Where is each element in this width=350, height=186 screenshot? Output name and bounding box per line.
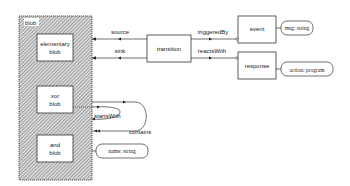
and-blob-node[interactable]: and blob — [37, 135, 73, 162]
startsWith-edge-label: startsWith — [94, 113, 121, 119]
contains-edge-label: contains — [129, 129, 151, 135]
event-label: event — [250, 26, 265, 32]
event-attribute[interactable]: msg: string — [276, 21, 313, 35]
reactsWith-edge-label: reactsWith — [198, 48, 226, 54]
triggeredBy-edge[interactable]: triggeredBy — [191, 29, 238, 40]
elementary-blob-label-1: elementary — [40, 41, 70, 47]
response-attribute[interactable]: action: program — [276, 62, 333, 76]
sink-edge-label: sink — [115, 48, 127, 54]
source-edge[interactable]: source — [92, 29, 147, 41]
event-node[interactable]: event — [238, 16, 276, 43]
blob-container-label: blob — [25, 20, 37, 26]
transition-node[interactable]: transition — [147, 35, 191, 62]
elementary-blob-node[interactable]: elementary blob — [37, 34, 73, 61]
xor-blob-label-1: xor — [51, 93, 59, 99]
sink-edge[interactable]: sink — [92, 48, 147, 60]
and-blob-label-2: blob — [49, 150, 61, 156]
response-label: response — [245, 63, 270, 69]
response-node[interactable]: response — [238, 52, 276, 79]
and-blob-label-1: and — [50, 142, 60, 148]
source-edge-label: source — [111, 29, 130, 35]
reactsWith-edge[interactable]: reactsWith — [191, 48, 238, 59]
response-attribute-label: action: program — [290, 67, 326, 73]
event-attribute-label: msg: string — [285, 25, 310, 31]
blob-attribute[interactable]: name: string — [92, 144, 148, 158]
transition-label: transition — [157, 46, 181, 52]
diagram-canvas: blob elementary blob xor blob and blob t… — [0, 0, 350, 186]
elementary-blob-label-2: blob — [49, 49, 61, 55]
triggeredBy-edge-label: triggeredBy — [198, 29, 229, 35]
xor-blob-node[interactable]: xor blob — [37, 86, 73, 113]
blob-attribute-label: name: string — [108, 148, 136, 154]
xor-blob-label-2: blob — [49, 101, 61, 107]
